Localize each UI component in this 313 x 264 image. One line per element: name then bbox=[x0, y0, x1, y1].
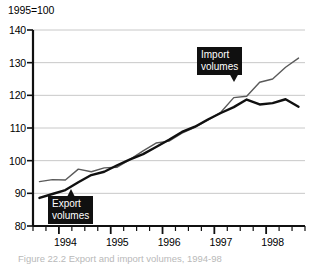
y-tick-label-140: 140 bbox=[0, 25, 26, 35]
y-tick-label-120: 120 bbox=[0, 90, 26, 100]
annotation-import-pointer-icon bbox=[229, 73, 239, 82]
figure-caption: Figure 22.2 Export and import volumes, 1… bbox=[18, 253, 308, 264]
x-tick-label-1997: 1997 bbox=[210, 237, 233, 248]
y-tick-label-90: 90 bbox=[0, 188, 26, 198]
y-tick-label-110: 110 bbox=[0, 123, 26, 133]
x-tick-label-1994: 1994 bbox=[54, 237, 77, 248]
y-tick-label-130: 130 bbox=[0, 58, 26, 68]
x-tick-label-1998: 1998 bbox=[261, 237, 284, 248]
x-tick-label-1996: 1996 bbox=[158, 237, 181, 248]
annotation-import-line2: volumes bbox=[201, 61, 238, 73]
annotation-export-volumes: Export volumes bbox=[48, 196, 93, 224]
annotation-import-line1: Import bbox=[201, 49, 229, 60]
annotation-import-volumes: Import volumes bbox=[197, 47, 242, 75]
y-tick-label-80: 80 bbox=[0, 221, 26, 231]
x-axis-ticks bbox=[33, 226, 305, 234]
series-line-import-volumes bbox=[39, 58, 298, 181]
y-tick-label-100: 100 bbox=[0, 156, 26, 166]
annotation-export-line2: volumes bbox=[52, 210, 89, 222]
annotation-export-line1: Export bbox=[52, 198, 81, 209]
series-line-export-volumes bbox=[39, 99, 298, 198]
gridlines bbox=[33, 30, 305, 193]
x-tick-label-1995: 1995 bbox=[106, 237, 129, 248]
annotation-export-pointer-icon bbox=[67, 189, 75, 197]
